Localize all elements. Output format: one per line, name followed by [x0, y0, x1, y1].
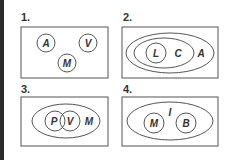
panel-2-ellipse-middle — [134, 38, 194, 68]
label-i: I — [169, 107, 172, 118]
label-a: A — [41, 38, 49, 49]
label-a-outer: A — [196, 48, 204, 59]
label-v-3: V — [67, 116, 75, 127]
label-c: C — [174, 48, 182, 59]
label-v: V — [85, 38, 93, 49]
label-m-3: M — [85, 116, 94, 127]
panel-4-box — [122, 97, 218, 146]
label-m-4: M — [150, 118, 159, 129]
label-m: M — [63, 58, 72, 69]
label-b: B — [182, 118, 189, 129]
label-p: P — [51, 116, 58, 127]
panel-1-box — [21, 27, 108, 78]
label-l: L — [153, 48, 159, 59]
venn-diagrams: A V M L C A P V M M I B — [0, 0, 230, 160]
